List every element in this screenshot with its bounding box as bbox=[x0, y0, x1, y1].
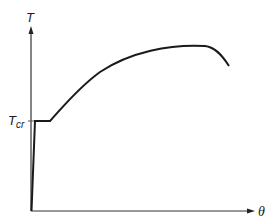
x-axis-label: θ bbox=[258, 204, 265, 219]
torque-curve bbox=[32, 46, 230, 211]
diagram-canvas: T θ Tcr bbox=[0, 0, 274, 222]
tcr-label-sub: cr bbox=[16, 119, 25, 130]
x-axis-arrow-icon bbox=[247, 209, 255, 214]
y-axis-arrow-icon bbox=[29, 26, 34, 34]
tcr-label: Tcr bbox=[8, 113, 25, 130]
y-axis-label: T bbox=[26, 10, 35, 25]
